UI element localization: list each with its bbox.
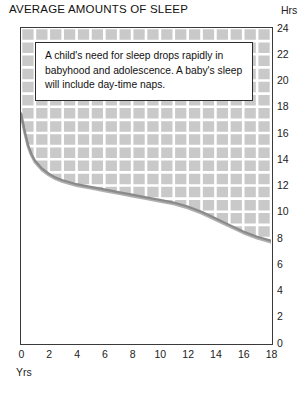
y-axis-tick-label: 2: [277, 310, 303, 322]
y-axis-tick-label: 6: [277, 258, 303, 270]
y-axis-tick-label: 16: [277, 127, 303, 139]
y-axis-tick-label: 10: [277, 205, 303, 217]
x-axis-tick-label: 18: [262, 348, 282, 360]
x-axis-tick-label: 4: [67, 348, 87, 360]
y-axis-tick-label: 24: [277, 22, 303, 34]
y-axis-unit-label: Hrs: [281, 4, 297, 16]
x-axis-tick-label: 16: [234, 348, 254, 360]
x-axis-tick-label: 0: [12, 348, 32, 360]
annotation-text: A child's need for sleep drops rapidly i…: [45, 49, 244, 93]
y-axis-tick-label: 20: [277, 74, 303, 86]
y-axis-tick-label: 22: [277, 48, 303, 60]
y-axis-tick-label: 8: [277, 232, 303, 244]
y-axis-tick-label: 18: [277, 100, 303, 112]
x-axis-tick-label: 8: [123, 348, 143, 360]
annotation-callout: A child's need for sleep drops rapidly i…: [35, 42, 253, 101]
page-title: AVERAGE AMOUNTS OF SLEEP: [9, 3, 188, 15]
x-axis-tick-label: 14: [206, 348, 226, 360]
x-axis-tick-label: 10: [150, 348, 170, 360]
sleep-chart: AVERAGE AMOUNTS OF SLEEP Hrs Yrs 0246810…: [0, 0, 308, 395]
x-axis-tick-label: 6: [95, 348, 115, 360]
y-axis-tick-label: 0: [277, 337, 303, 349]
y-axis-tick-label: 12: [277, 179, 303, 191]
y-axis-tick-label: 4: [277, 284, 303, 296]
x-axis-tick-label: 2: [39, 348, 59, 360]
y-axis-tick-label: 14: [277, 153, 303, 165]
x-axis-unit-label: Yrs: [16, 366, 32, 378]
x-axis-tick-label: 12: [178, 348, 198, 360]
